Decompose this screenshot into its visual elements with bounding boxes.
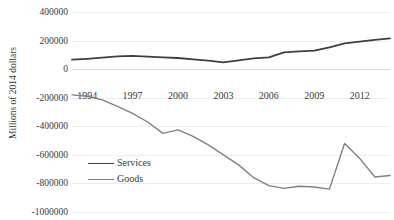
- y-axis-tick-label: -800000: [36, 178, 68, 188]
- chart-figure: Millions of 2014 dollars 4000002000000-2…: [0, 0, 394, 220]
- chart-legend: Services Goods: [88, 155, 151, 187]
- legend-item-services: Services: [88, 155, 151, 171]
- legend-label-goods: Goods: [117, 174, 143, 184]
- legend-label-services: Services: [117, 158, 151, 168]
- y-axis-tick-label: -1000000: [32, 207, 68, 217]
- y-axis-tick-label: -200000: [36, 93, 68, 103]
- y-axis-title: Millions of 2014 dollars: [8, 28, 18, 158]
- y-axis-tick-label: -600000: [36, 150, 68, 160]
- y-axis-tick-label: 400000: [40, 7, 69, 17]
- y-axis-tick-label: 200000: [40, 36, 69, 46]
- y-axis-tick-label: 0: [63, 64, 68, 74]
- legend-swatch-services: [88, 163, 114, 164]
- y-axis-tick-label: -400000: [36, 121, 68, 131]
- legend-item-goods: Goods: [88, 171, 151, 187]
- series-line-services: [72, 38, 390, 62]
- gridline: [72, 212, 390, 213]
- chart-title: [0, 0, 394, 4]
- legend-swatch-goods: [88, 179, 114, 180]
